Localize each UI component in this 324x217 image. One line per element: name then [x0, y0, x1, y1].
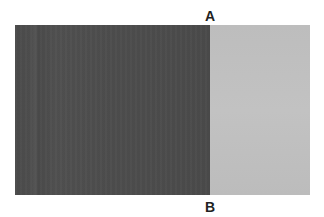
label-a: A: [200, 9, 220, 23]
dark-region: [15, 25, 210, 195]
label-b: B: [200, 200, 220, 214]
grayscale-image: [15, 25, 310, 195]
light-region: [210, 25, 310, 195]
